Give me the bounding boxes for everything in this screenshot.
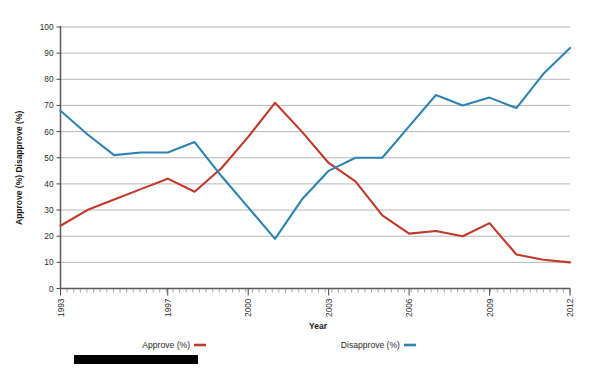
line-chart: 1009080706050403020100 19931997200020032… xyxy=(0,0,590,369)
y-tick-label: 80 xyxy=(44,74,54,84)
x-tick-marks-group xyxy=(61,289,571,296)
y-tick-label: 90 xyxy=(44,48,54,58)
legend-label-approve: Approve (%) xyxy=(142,340,190,350)
x-tick-label: 2009 xyxy=(485,298,495,317)
legend-label-disapprove: Disapprove (%) xyxy=(341,340,400,350)
y-axis-title: Approve (%) Disapprove (%) xyxy=(14,111,24,225)
x-tick-label: 2006 xyxy=(404,298,414,317)
x-axis-title: Year xyxy=(309,321,328,331)
y-tick-label: 30 xyxy=(44,205,54,215)
y-tick-label: 0 xyxy=(49,284,54,294)
y-tick-label: 60 xyxy=(44,127,54,137)
y-tick-label: 10 xyxy=(44,257,54,267)
x-tick-label: 2000 xyxy=(243,298,253,317)
series-lines-group xyxy=(61,48,571,262)
x-tick-label: 1997 xyxy=(163,298,173,317)
x-tick-label: 2003 xyxy=(324,298,334,317)
x-tick-labels-group: 1993199720002003200620092012 xyxy=(56,298,576,317)
x-tick-label: 1993 xyxy=(56,298,66,317)
y-tick-label: 40 xyxy=(44,179,54,189)
y-tick-label: 20 xyxy=(44,231,54,241)
y-tick-labels-group: 1009080706050403020100 xyxy=(40,22,54,294)
y-tick-label: 70 xyxy=(44,100,54,110)
y-tick-label: 100 xyxy=(40,22,54,32)
y-tick-label: 50 xyxy=(44,153,54,163)
x-tick-label: 2012 xyxy=(565,298,575,317)
chart-page: 1009080706050403020100 19931997200020032… xyxy=(0,0,590,369)
redaction-bar xyxy=(74,355,198,364)
series-line-approve xyxy=(61,103,571,263)
legend: Approve (%)Disapprove (%) xyxy=(142,340,416,350)
